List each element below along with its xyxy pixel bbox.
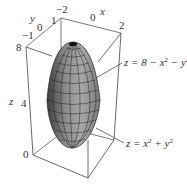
z-tick-4: 4	[21, 98, 27, 109]
y-axis-label: y	[30, 13, 35, 24]
surface	[47, 42, 100, 148]
y-tick-1: 1	[51, 15, 57, 26]
z-tick-8: 8	[16, 42, 22, 53]
lower-surface-label: z = x2 + y2	[126, 138, 173, 149]
x-tick-neg2: −2	[56, 4, 68, 15]
leader-lower	[96, 128, 124, 143]
y-tick-0: 0	[37, 22, 43, 33]
x-axis-label: x	[100, 6, 105, 17]
x-tick-0: 0	[90, 12, 96, 23]
z-axis-label: z	[9, 96, 13, 107]
y-tick-neg1: −1	[22, 30, 34, 41]
z-tick-0: 0	[23, 149, 29, 160]
x-tick-2: 2	[119, 20, 125, 31]
upper-surface-label: z = 8 − x2 − y2	[124, 57, 187, 68]
